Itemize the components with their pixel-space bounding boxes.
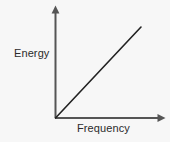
x-axis-label: Frequency xyxy=(77,122,130,134)
y-axis-label: Energy xyxy=(14,47,49,59)
x-axis-arrow-right-icon xyxy=(158,114,166,122)
plot-canvas xyxy=(0,0,170,142)
physics-diagram-energy-vs-frequency: Energy Frequency xyxy=(0,0,170,142)
y-axis-arrow-up-icon xyxy=(52,6,60,14)
data-line-energy-vs-frequency xyxy=(56,27,142,118)
